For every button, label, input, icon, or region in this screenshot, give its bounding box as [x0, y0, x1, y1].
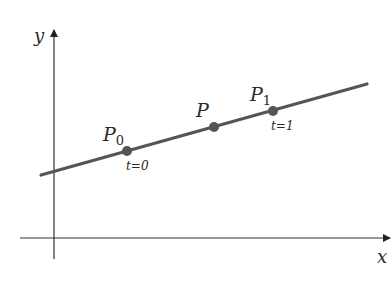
point-p1-label: P1 [249, 83, 271, 108]
point-p [209, 122, 219, 132]
point-p0-label: P0 [102, 123, 124, 148]
y-axis-label: y [33, 25, 45, 46]
parametric-line [41, 84, 367, 175]
point-p1-param-label: t=1 [271, 119, 294, 133]
x-axis-label: x [377, 246, 387, 267]
diagram-canvas: y x P0 t=0 P P1 t=1 [0, 0, 392, 282]
point-p-label: P [195, 99, 210, 121]
parametric-line-diagram: y x P0 t=0 P P1 t=1 [0, 0, 392, 282]
point-p0-param-label: t=0 [126, 159, 149, 173]
